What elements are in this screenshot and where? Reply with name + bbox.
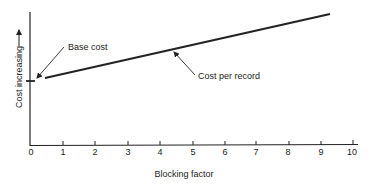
tick-label: 4 [157,147,162,157]
tick-label: 5 [190,147,195,157]
tick-label: 2 [92,147,97,157]
base-cost-arrow [37,47,64,78]
tick-label: 3 [125,147,130,157]
y-axis-label: Cost increasing [14,46,24,108]
tick-label: 7 [253,147,258,157]
cost-per-record-arrow [174,52,195,75]
chart: 0 1 2 3 4 5 6 7 8 9 10 Blocking factor C… [0,0,373,186]
cost-per-record-label: Cost per record [198,71,260,81]
y-axis-label-group: Cost increasing [14,30,24,108]
x-tick-labels: 0 1 2 3 4 5 6 7 8 9 10 [28,147,357,157]
tick-label: 1 [60,147,65,157]
x-axis [30,145,358,146]
tick-label: 9 [318,147,323,157]
tick-label: 10 [347,147,357,157]
x-axis-label: Blocking factor [154,169,213,179]
tick-label: 8 [285,147,290,157]
base-cost-label: Base cost [68,42,108,52]
tick-label: 6 [222,147,227,157]
tick-label: 0 [28,147,33,157]
